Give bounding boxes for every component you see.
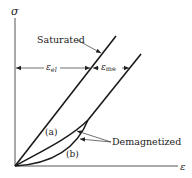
stress-strain-diagram: σ ε Saturated εel εme (a) (b) Demagnetiz… <box>0 0 192 178</box>
saturated-line <box>15 36 116 166</box>
demagnetized-label: Demagnetized <box>112 136 181 147</box>
x-axis-label: ε <box>180 161 185 172</box>
saturated-label: Saturated <box>37 34 85 45</box>
curve-b-label: (b) <box>66 149 79 159</box>
y-axis-label: σ <box>11 5 19 18</box>
curve-a-label: (a) <box>45 127 57 137</box>
saturated-pointer <box>77 40 101 53</box>
demagnetized-linear-line <box>88 54 141 120</box>
eps-el-label: εel <box>46 62 57 74</box>
eps-me-label: εme <box>101 62 116 73</box>
